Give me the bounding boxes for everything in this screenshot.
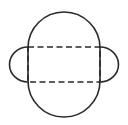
diagram-figure [0, 0, 128, 125]
right-side-tab [100, 47, 119, 82]
dashed-fold-rectangle [28, 47, 100, 82]
diagram-canvas [0, 0, 128, 125]
left-side-tab [10, 47, 29, 82]
stadium-outline [28, 12, 100, 117]
